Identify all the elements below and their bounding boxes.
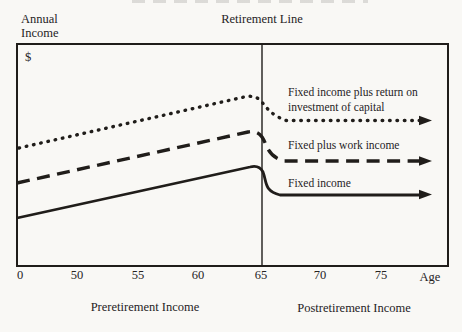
chart-canvas xyxy=(0,0,462,332)
x-axis-title: Age xyxy=(420,270,441,285)
series-label-fixed-plus-return: Fixed income plus return on investment o… xyxy=(288,85,442,114)
region-label-preretirement: Preretirement Income xyxy=(82,300,208,314)
arrowhead-solid xyxy=(419,190,432,200)
figure-canvas: Annual Income Retirement Line $ Fixed in… xyxy=(0,0,462,332)
series-label-fixed-plus-work: Fixed plus work income xyxy=(288,138,448,153)
arrowhead-dotted xyxy=(419,116,432,126)
plot-frame xyxy=(17,44,448,266)
series-label-fixed-income: Fixed income xyxy=(288,176,448,191)
region-label-postretirement: Postretirement Income xyxy=(290,301,418,315)
series-line-solid xyxy=(17,166,421,218)
arrowhead-dashed xyxy=(419,156,432,166)
